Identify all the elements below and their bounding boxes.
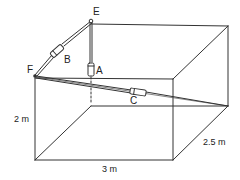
depth-dimension-label: 2.5 m — [203, 137, 226, 147]
spring-a — [88, 63, 94, 76]
box-back-edges — [91, 24, 228, 106]
spring-b — [50, 44, 64, 58]
point-e-label: E — [93, 6, 100, 17]
box-front-face — [35, 78, 173, 160]
spring-a-label: A — [96, 65, 103, 76]
spring-c-label: C — [130, 95, 137, 106]
box-cable-diagram: E F B A C 2 m 3 m 2.5 m — [0, 0, 240, 180]
height-dimension-label: 2 m — [14, 114, 29, 124]
width-dimension-label: 3 m — [102, 164, 117, 174]
point-e-marker — [89, 19, 93, 23]
diagram-canvas: E F B A C 2 m 3 m 2.5 m — [0, 0, 240, 180]
point-f-label: F — [27, 64, 33, 75]
point-f-marker — [33, 74, 37, 78]
spring-b-label: B — [64, 54, 71, 65]
